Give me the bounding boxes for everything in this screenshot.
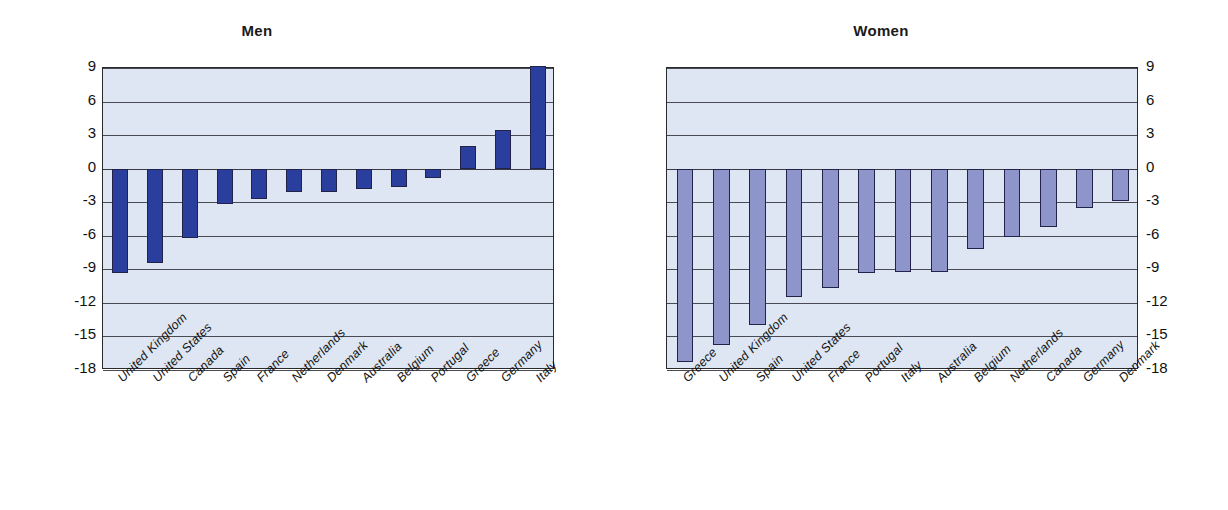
bar <box>786 169 803 298</box>
bar <box>1004 169 1021 237</box>
bar <box>495 130 511 169</box>
plot-area-women <box>666 67 1138 369</box>
bar <box>286 169 302 192</box>
bar <box>822 169 839 289</box>
y-tick-label: 6 <box>1146 92 1202 107</box>
bar <box>677 169 694 363</box>
y-tick-label: -12 <box>40 293 96 308</box>
bars-women <box>667 68 1137 368</box>
chart-title-women: Women <box>574 22 1188 39</box>
y-tick-label: -9 <box>40 259 96 274</box>
y-axis-labels-women: 9630-3-6-9-12-15-18 <box>1146 0 1202 510</box>
y-tick-label: -9 <box>1146 259 1202 274</box>
y-tick-label: 3 <box>1146 125 1202 140</box>
bar <box>1076 169 1093 208</box>
y-tick-label: -15 <box>40 326 96 341</box>
bar <box>356 169 372 189</box>
bar <box>858 169 875 273</box>
chart-panel-women: Women 9630-3-6-9-12-15-18 GreeceUnited K… <box>614 0 1228 510</box>
bar <box>391 169 407 187</box>
bar <box>1112 169 1129 201</box>
bar <box>182 169 198 238</box>
bar <box>749 169 766 326</box>
y-tick-label: -12 <box>1146 293 1202 308</box>
y-tick-label: -3 <box>1146 192 1202 207</box>
bar <box>217 169 233 205</box>
y-tick-label: -18 <box>40 360 96 375</box>
y-axis-labels-men: 9630-3-6-9-12-15-18 <box>40 0 96 510</box>
bar <box>425 169 441 178</box>
y-tick-label: 3 <box>40 125 96 140</box>
bar <box>147 169 163 263</box>
y-tick-label: 9 <box>1146 58 1202 73</box>
chart-panel-men: Men 9630-3-6-9-12-15-18 United KingdomUn… <box>0 0 614 510</box>
bar <box>251 169 267 199</box>
y-tick-label: -3 <box>40 192 96 207</box>
y-tick-label: 9 <box>40 58 96 73</box>
figure-root: Men 9630-3-6-9-12-15-18 United KingdomUn… <box>0 0 1228 510</box>
y-tick-label: 0 <box>1146 159 1202 174</box>
bar <box>931 169 948 272</box>
x-axis-labels-women: GreeceUnited KingdomSpainUnited StatesFr… <box>666 375 1138 510</box>
y-tick-label: 6 <box>40 92 96 107</box>
bar <box>967 169 984 250</box>
y-tick-label: -18 <box>1146 360 1202 375</box>
x-axis-labels-men: United KingdomUnited StatesCanadaSpainFr… <box>102 375 554 510</box>
bar <box>112 169 128 273</box>
bar <box>713 169 730 346</box>
y-tick-label: -6 <box>1146 226 1202 241</box>
y-tick-label: -6 <box>40 226 96 241</box>
bar <box>530 66 546 169</box>
y-tick-label: 0 <box>40 159 96 174</box>
bar <box>321 169 337 192</box>
bar <box>1040 169 1057 227</box>
bar <box>460 146 476 168</box>
bar <box>895 169 912 272</box>
